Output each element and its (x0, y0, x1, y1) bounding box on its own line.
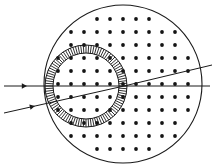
grid-dot (121, 108, 125, 112)
grid-dot (134, 56, 138, 60)
grid-dot (121, 134, 125, 138)
shell-hatch-line (118, 88, 127, 89)
background-plate (0, 0, 216, 167)
grid-dot (147, 134, 151, 138)
grid-dot (173, 82, 177, 86)
grid-dot (173, 69, 177, 73)
grid-dot (173, 43, 177, 47)
grid-dot (95, 30, 99, 34)
grid-dot (121, 17, 125, 21)
grid-dot (82, 30, 86, 34)
grid-dot (160, 30, 164, 34)
grid-dot (108, 82, 112, 86)
grid-dot (147, 30, 151, 34)
grid-dot (160, 121, 164, 125)
grid-dot (173, 30, 177, 34)
grid-dot (95, 69, 99, 73)
grid-dot (147, 147, 151, 151)
grid-dot (82, 69, 86, 73)
grid-dot (82, 108, 86, 112)
shell-hatch-line (118, 83, 127, 84)
figure-container (0, 0, 216, 167)
shell-hatch-line (83, 118, 84, 127)
grid-dot (160, 69, 164, 73)
shell-hatch-line (88, 118, 89, 127)
grid-dot (95, 17, 99, 21)
grid-dot (134, 30, 138, 34)
grid-dot (69, 30, 73, 34)
grid-dot (121, 43, 125, 47)
grid-dot (147, 121, 151, 125)
grid-dot (69, 82, 73, 86)
grid-dot (95, 95, 99, 99)
grid-dot (134, 147, 138, 151)
grid-dot (160, 56, 164, 60)
grid-dot (82, 56, 86, 60)
grid-dot (134, 43, 138, 47)
shell-hatch-line (88, 44, 89, 53)
grid-dot (186, 82, 190, 86)
grid-dot (108, 134, 112, 138)
grid-dot (108, 95, 112, 99)
grid-dot (173, 108, 177, 112)
grid-dot (134, 134, 138, 138)
shell-hatch-line (83, 44, 84, 53)
grid-dot (147, 95, 151, 99)
grid-dot (134, 17, 138, 21)
grid-dot (186, 95, 190, 99)
grid-dot (69, 108, 73, 112)
grid-dot (147, 43, 151, 47)
shell-hatch-line (44, 88, 53, 89)
grid-dot (147, 69, 151, 73)
grid-dot (82, 82, 86, 86)
grid-dot (147, 82, 151, 86)
grid-dot (134, 95, 138, 99)
grid-dot (69, 69, 73, 73)
grid-dot (108, 17, 112, 21)
grid-dot (108, 147, 112, 151)
grid-dot (160, 108, 164, 112)
grid-dot (186, 108, 190, 112)
grid-dot (69, 43, 73, 47)
grid-dot (108, 43, 112, 47)
grid-dot (82, 134, 86, 138)
grid-dot (56, 95, 60, 99)
grid-dot (121, 121, 125, 125)
grid-dot (108, 121, 112, 125)
grid-dot (134, 69, 138, 73)
grid-dot (134, 121, 138, 125)
shell-hatch-line (44, 83, 53, 84)
grid-dot (95, 147, 99, 151)
grid-dot (108, 30, 112, 34)
grid-dot (69, 134, 73, 138)
grid-dot (121, 56, 125, 60)
grid-dot (121, 30, 125, 34)
grid-dot (173, 95, 177, 99)
grid-dot (95, 82, 99, 86)
grid-dot (147, 108, 151, 112)
grid-dot (95, 56, 99, 60)
grid-dot (95, 108, 99, 112)
grid-dot (160, 95, 164, 99)
grid-dot (108, 69, 112, 73)
grid-dot (160, 43, 164, 47)
grid-dot (134, 108, 138, 112)
optical-ray-diagram (0, 0, 216, 167)
grid-dot (173, 121, 177, 125)
grid-dot (160, 134, 164, 138)
grid-dot (186, 56, 190, 60)
grid-dot (173, 56, 177, 60)
grid-dot (95, 134, 99, 138)
grid-dot (160, 82, 164, 86)
grid-dot (173, 134, 177, 138)
grid-dot (56, 82, 60, 86)
grid-dot (121, 147, 125, 151)
grid-dot (147, 17, 151, 21)
grid-dot (147, 56, 151, 60)
